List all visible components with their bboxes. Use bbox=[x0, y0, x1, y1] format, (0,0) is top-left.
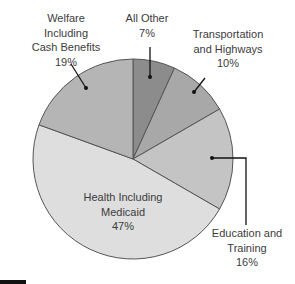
leader-dot bbox=[210, 156, 214, 160]
page-edge-bar bbox=[0, 280, 26, 284]
label-health: Health Including Medicaid 47% bbox=[84, 190, 163, 234]
leader-dot bbox=[192, 90, 196, 94]
label-all-other: All Other 7% bbox=[126, 11, 169, 40]
leader-dot bbox=[148, 75, 152, 79]
label-welfare: Welfare Including Cash Benefits 19% bbox=[32, 11, 100, 69]
label-education: Education and Training 16% bbox=[212, 226, 282, 270]
label-transportation: Transportation and Highways 10% bbox=[193, 27, 264, 71]
leader-dot bbox=[84, 86, 88, 90]
